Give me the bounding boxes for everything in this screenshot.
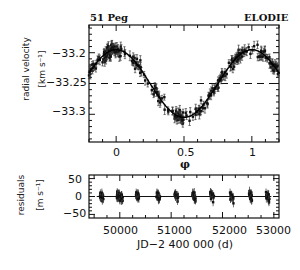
chart-canvas [0, 0, 300, 270]
